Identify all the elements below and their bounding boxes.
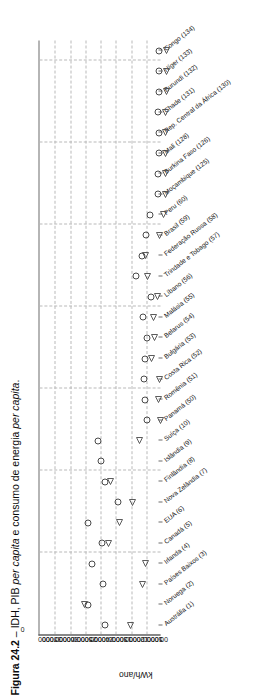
data-point-triangle: [150, 416, 168, 424]
data-point-circle: [138, 252, 145, 259]
data-point-circle: [97, 457, 104, 464]
category-tickmark: [158, 439, 162, 440]
y-axis-left-ticklabels: 35000300002500020000150001000050000: [38, 635, 160, 697]
y-tick-right: 40000: [90, 636, 109, 643]
y-tick-right: 30000: [107, 636, 126, 643]
gridline-vertical: [39, 223, 160, 224]
data-point-triangle: [132, 580, 150, 588]
category-tickmark: [158, 603, 162, 604]
gridline-vertical: [39, 387, 160, 388]
data-point-triangle: [148, 395, 166, 403]
data-point-circle: [99, 580, 106, 587]
category-tickmark: [158, 624, 162, 625]
gridline-vertical: [39, 551, 160, 552]
data-point-circle: [132, 272, 139, 279]
data-point-triangle: [120, 621, 138, 629]
gridline-horizontal: [131, 40, 132, 634]
y-tick-right: 10000: [142, 636, 161, 643]
category-tickmark: [158, 583, 162, 584]
data-point-circle: [146, 211, 153, 218]
figure-number: Figura 24.2: [8, 640, 20, 695]
gridline-horizontal: [70, 40, 71, 634]
data-point-circle: [141, 396, 148, 403]
data-point-circle: [154, 170, 161, 177]
data-point-circle: [143, 416, 150, 423]
caption-dash: –: [8, 631, 20, 637]
category-axis-labels: Austrália (1)Noruega (2)Países Baixos (3…: [162, 35, 272, 635]
data-point-circle: [101, 621, 108, 628]
category-tickmark: [158, 562, 162, 563]
caption-italic-2: per capita: [8, 382, 20, 428]
data-point-circle: [88, 560, 95, 567]
category-tickmark: [158, 542, 162, 543]
caption-text-2: e consumo de energia: [8, 428, 20, 538]
category-tickmark: [158, 521, 162, 522]
gridline-vertical: [39, 469, 160, 470]
category-tickmark: [158, 254, 162, 255]
category-tickmark: [158, 501, 162, 502]
gridline-horizontal: [54, 40, 55, 634]
data-point-circle: [155, 149, 162, 156]
caption-text-1: IDH, PIB: [8, 584, 20, 628]
data-point-triangle: [122, 498, 140, 506]
data-point-triangle: [109, 518, 127, 526]
rotated-figure-frame: Figura 24.2 – IDH, PIB per capita e cons…: [0, 0, 272, 697]
y-tick-right: 20000: [125, 636, 144, 643]
data-point-circle: [147, 293, 154, 300]
caption-text-3: .: [8, 379, 20, 382]
data-point-circle: [141, 355, 148, 362]
data-point-circle: [143, 334, 150, 341]
category-tickmark: [158, 460, 162, 461]
data-point-triangle: [135, 559, 153, 567]
data-point-circle: [155, 47, 162, 54]
data-point-circle: [94, 437, 101, 444]
axis-zero-label: 0: [20, 625, 24, 632]
data-point-circle: [154, 190, 161, 197]
data-point-circle: [98, 539, 105, 546]
data-point-triangle: [153, 210, 171, 218]
data-point-triangle: [129, 436, 147, 444]
data-point-circle: [139, 313, 146, 320]
data-point-circle: [155, 88, 162, 95]
figure-page: Figura 24.2 – IDH, PIB per capita e cons…: [0, 0, 272, 697]
data-point-circle: [154, 108, 161, 115]
data-point-circle: [84, 601, 91, 608]
category-tickmark: [158, 480, 162, 481]
y-tick-right: 50000: [72, 636, 91, 643]
data-point-triangle: [149, 231, 167, 239]
category-tickmark: [158, 275, 162, 276]
category-label: EUA (6): [162, 504, 185, 524]
gridline-horizontal: [85, 40, 86, 634]
gridline-vertical: [39, 141, 160, 142]
gridline-vertical: [39, 59, 160, 60]
data-point-circle: [140, 375, 147, 382]
data-point-circle: [84, 519, 91, 526]
data-point-circle: [142, 231, 149, 238]
y-tick-right: 60000: [55, 636, 74, 643]
data-point-triangle: [137, 272, 155, 280]
data-point-circle: [101, 478, 108, 485]
figure-caption: Figura 24.2 – IDH, PIB per capita e cons…: [8, 379, 20, 695]
caption-italic-1: per capita: [8, 538, 20, 584]
y-tick-right: 0: [160, 636, 164, 643]
chart-plot-area: kWh/ano 35000300002500020000150001000050…: [32, 0, 272, 697]
y-axis-right-ticklabels: 700006000050000400003000020000100000: [160, 635, 190, 697]
data-point-circle: [114, 498, 121, 505]
data-point-circle: [155, 67, 162, 74]
data-point-triangle: [149, 375, 167, 383]
gridline-vertical: [39, 305, 160, 306]
data-point-circle: [155, 129, 162, 136]
